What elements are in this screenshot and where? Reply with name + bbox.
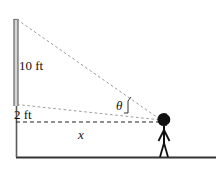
pole-lower-height-label: 2 ft xyxy=(14,108,32,121)
vertical-pole xyxy=(14,19,19,106)
angle-arc xyxy=(124,101,128,113)
sight-line-bottom xyxy=(17,105,161,121)
pole-upper-height-label: 10 ft xyxy=(19,59,43,72)
horizontal-distance-label: x xyxy=(78,128,84,141)
stick-figure-leg-left xyxy=(160,143,164,157)
stick-figure-leg-right xyxy=(164,143,168,157)
angle-theta-label: θ xyxy=(116,99,122,112)
angle-of-elevation-diagram: 10 ft 2 ft x θ xyxy=(0,0,223,177)
diagram-canvas xyxy=(0,0,223,177)
stick-figure xyxy=(157,113,171,157)
